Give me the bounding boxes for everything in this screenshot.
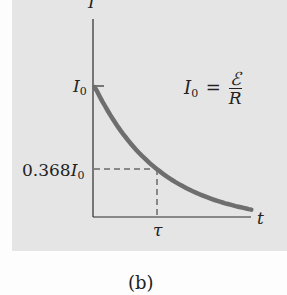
x-axis-label: t xyxy=(257,208,264,228)
y-tick-i0: I0 xyxy=(73,76,87,98)
figure-caption: (b) xyxy=(128,272,154,293)
eq-numerator: ℰ xyxy=(229,70,242,89)
i368-label: 0.368I xyxy=(22,160,77,180)
i0-subscript: 0 xyxy=(80,85,87,98)
figure: I I0 0.368I0 τ t I0 = ℰ R (b) xyxy=(0,0,287,295)
y-axis-label: I xyxy=(88,0,95,12)
i0-label: I xyxy=(73,76,80,96)
eq-fraction: ℰ R xyxy=(229,70,242,107)
y-tick-0368: 0.368I0 xyxy=(22,160,84,182)
eq-subscript: 0 xyxy=(191,87,198,100)
x-tick-tau: τ xyxy=(153,220,162,240)
eq-denominator: R xyxy=(229,89,242,107)
eq-sign: = xyxy=(206,77,221,98)
equation-annotation: I0 = ℰ R xyxy=(184,70,242,107)
i368-subscript: 0 xyxy=(77,169,84,182)
plot-area xyxy=(0,0,287,295)
